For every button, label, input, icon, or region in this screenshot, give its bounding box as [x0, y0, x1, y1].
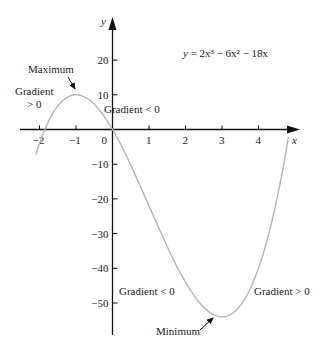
y-ticks: 2010−10−20−30−40−50	[91, 54, 117, 309]
y-tick-label: −10	[91, 158, 109, 170]
gradient-positive-left-label-line1: Gradient	[15, 85, 53, 97]
minimum-arrow-icon	[200, 318, 213, 330]
x-tick-label: 3	[219, 134, 225, 146]
y-tick-label: 10	[98, 89, 110, 101]
x-tick-label: 0	[102, 134, 108, 146]
x-tick-label: 2	[183, 134, 189, 146]
x-axis-arrow-icon	[287, 126, 300, 134]
maximum-label: Maximum	[28, 63, 74, 75]
x-ticks: −2−101234	[33, 126, 262, 146]
maximum-arrow-icon	[68, 77, 75, 89]
cubic-curve	[36, 95, 289, 317]
x-tick-label: −1	[69, 134, 81, 146]
y-tick-label: −20	[91, 193, 109, 205]
y-tick-label: 20	[98, 54, 110, 66]
y-tick-label: −50	[91, 297, 109, 309]
y-axis-label: y	[100, 15, 106, 27]
gradient-positive-left-label-line2: > 0	[27, 98, 42, 110]
x-tick-label: 1	[146, 134, 152, 146]
y-axis-arrow-icon	[109, 17, 117, 30]
y-tick-label: −40	[91, 262, 109, 274]
minimum-label: Minimum	[156, 325, 200, 337]
equation-label: y = 2x³ − 6x² − 18x	[182, 47, 269, 59]
gradient-negative-bottom-label: Gradient < 0	[119, 285, 175, 297]
y-tick-label: −30	[91, 228, 109, 240]
cubic-graph: −2−101234 2010−10−20−30−40−50 x y y = 2x…	[0, 0, 335, 349]
gradient-positive-right-label: Gradient > 0	[254, 285, 310, 297]
x-axis-label: x	[291, 134, 297, 146]
gradient-negative-top-label: Gradient < 0	[104, 103, 160, 115]
x-tick-label: 4	[256, 134, 262, 146]
